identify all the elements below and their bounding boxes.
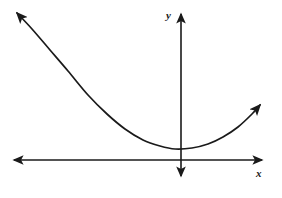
y-axis-label: y	[166, 10, 171, 21]
parabola-curve	[17, 13, 260, 149]
x-axis-label: x	[256, 168, 262, 179]
graph-figure: y x	[0, 0, 282, 198]
graph-canvas	[0, 0, 282, 198]
